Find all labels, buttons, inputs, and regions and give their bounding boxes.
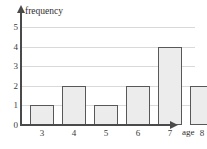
gridline-5 (21, 27, 195, 28)
y-tick-3: 3 (0, 62, 18, 71)
bar-age-5 (94, 105, 118, 125)
bar-age-7 (158, 47, 182, 125)
y-tick-5: 5 (0, 23, 18, 32)
y-tick-label: 4 (2, 43, 18, 52)
x-tick-label-4: 4 (62, 129, 86, 138)
plot-area: 0 1 2 3 4 5 3 4 5 6 7 8 frequency age (0, 0, 207, 149)
y-axis-arrow-icon (17, 5, 25, 13)
y-tick-label: 5 (2, 23, 18, 32)
bar-chart-figure: 0 1 2 3 4 5 3 4 5 6 7 8 frequency age (0, 0, 207, 149)
y-axis-line (20, 12, 22, 126)
y-tick-4: 4 (0, 43, 18, 52)
bar-age-3 (30, 105, 54, 125)
x-axis-line (20, 124, 172, 126)
x-tick-label-5: 5 (94, 129, 118, 138)
x-tick-label-6: 6 (126, 129, 150, 138)
bar-age-8 (190, 86, 207, 125)
y-tick-label: 3 (2, 62, 18, 71)
x-tick-label-3: 3 (30, 129, 54, 138)
x-axis-title: age (182, 128, 195, 137)
x-tick-label-7: 7 (158, 129, 182, 138)
bar-age-4 (62, 86, 86, 125)
y-tick-2: 2 (0, 82, 18, 91)
bar-age-6 (126, 86, 150, 125)
y-tick-0: 0 (0, 121, 18, 130)
y-tick-1: 1 (0, 101, 18, 110)
y-tick-label: 0 (2, 121, 18, 130)
y-tick-label: 1 (2, 101, 18, 110)
y-tick-label: 2 (2, 82, 18, 91)
y-axis-title: frequency (25, 6, 63, 16)
